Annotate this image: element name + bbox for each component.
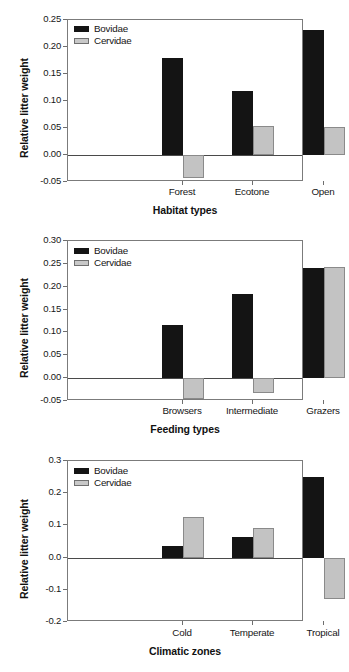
- legend-climatic: Bovidae Cervidae: [74, 465, 132, 489]
- bar-tropical-cervidae: [324, 558, 345, 600]
- y-tick-label: 0.00: [43, 149, 61, 159]
- legend-habitat: Bovidae Cervidae: [74, 23, 132, 47]
- x-tick-mark: [323, 621, 324, 625]
- bar-ecotone-cervidae: [253, 126, 274, 155]
- bar-temperate-bovidae: [232, 537, 253, 558]
- y-tick-label: 0.30: [43, 235, 61, 245]
- y-axis-title: Relative litter weight: [18, 499, 30, 599]
- x-tick-label: Grazers: [283, 405, 349, 416]
- x-tick-mark: [182, 400, 183, 404]
- y-tick-label: 0.25: [43, 14, 61, 24]
- bar-ecotone-bovidae: [232, 91, 253, 155]
- y-tick-label: 0.25: [43, 258, 61, 268]
- legend-swatch-cervidae-icon: [74, 480, 89, 486]
- bar-cold-cervidae: [183, 517, 204, 558]
- legend-row-cervidae: Cervidae: [74, 477, 132, 488]
- panel-habitat-types: Relative litter weight 0.250.200.150.100…: [0, 0, 323, 224]
- y-axis-title: Relative litter weight: [18, 278, 30, 378]
- zero-reference-line: [68, 558, 302, 559]
- x-tick-label: Ecotone: [212, 186, 292, 197]
- x-tick-mark: [323, 400, 324, 404]
- x-axis-title: Feeding types: [65, 423, 305, 435]
- y-tick-label: 0.0: [48, 552, 61, 562]
- legend-swatch-bovidae-icon: [74, 248, 89, 254]
- y-tick-label: 0.10: [43, 95, 61, 105]
- plot-area-feeding: Bovidae Cervidae: [67, 240, 303, 400]
- legend-swatch-bovidae-icon: [74, 468, 89, 474]
- bar-open-bovidae: [303, 30, 324, 155]
- y-tick-label: -0.2: [45, 616, 61, 626]
- y-tick-label: 0.05: [43, 349, 61, 359]
- bar-browsers-bovidae: [162, 325, 183, 378]
- bar-forest-cervidae: [183, 155, 204, 178]
- x-tick-label: Cold: [142, 627, 222, 638]
- bar-intermediate-cervidae: [253, 378, 274, 393]
- bar-grazers-cervidae: [324, 267, 345, 379]
- plot-area-climatic: Bovidae Cervidae: [67, 460, 303, 621]
- legend-row-bovidae: Bovidae: [74, 23, 132, 34]
- y-tick-label: 0.10: [43, 326, 61, 336]
- x-axis-title: Habitat types: [65, 204, 305, 216]
- bar-tropical-bovidae: [303, 477, 324, 558]
- panel-climatic-zones: Relative litter weight 0.30.20.10.0-0.1-…: [0, 448, 323, 672]
- legend-row-cervidae: Cervidae: [74, 257, 132, 268]
- y-axis-title: Relative litter weight: [18, 58, 30, 158]
- x-tick-mark: [252, 621, 253, 625]
- legend-swatch-cervidae-icon: [74, 38, 89, 44]
- x-tick-label: Intermediate: [212, 405, 292, 416]
- x-tick-mark: [182, 621, 183, 625]
- y-tick-label: 0.15: [43, 304, 61, 314]
- x-tick-mark: [252, 400, 253, 404]
- bar-cold-bovidae: [162, 546, 183, 558]
- x-tick-label: Browsers: [142, 405, 222, 416]
- x-tick-label: Forest: [142, 186, 222, 197]
- legend-label-cervidae: Cervidae: [94, 478, 132, 488]
- bar-open-cervidae: [324, 127, 345, 155]
- legend-label-bovidae: Bovidae: [94, 466, 128, 476]
- legend-swatch-cervidae-icon: [74, 260, 89, 266]
- x-tick-label: Tropical: [283, 627, 349, 638]
- plot-area-habitat: Bovidae Cervidae: [67, 19, 303, 181]
- y-tick-label: 0.05: [43, 122, 61, 132]
- y-tick-mark: [63, 400, 67, 401]
- x-tick-mark: [182, 181, 183, 185]
- legend-row-cervidae: Cervidae: [74, 35, 132, 46]
- y-tick-label: 0.1: [48, 519, 61, 529]
- x-tick-label: Open: [283, 186, 349, 197]
- legend-label-bovidae: Bovidae: [94, 246, 128, 256]
- legend-swatch-bovidae-icon: [74, 26, 89, 32]
- y-tick-label: 0.3: [48, 455, 61, 465]
- legend-label-cervidae: Cervidae: [94, 258, 132, 268]
- y-tick-label: -0.05: [40, 176, 61, 186]
- y-tick-label: 0.15: [43, 68, 61, 78]
- bar-grazers-bovidae: [303, 268, 324, 379]
- y-tick-mark: [63, 181, 67, 182]
- legend-row-bovidae: Bovidae: [74, 245, 132, 256]
- y-tick-mark: [63, 621, 67, 622]
- x-tick-mark: [323, 181, 324, 185]
- y-tick-label: 0.20: [43, 41, 61, 51]
- bar-browsers-cervidae: [183, 378, 204, 399]
- x-axis-title: Climatic zones: [65, 645, 305, 657]
- y-tick-label: 0.2: [48, 487, 61, 497]
- legend-label-bovidae: Bovidae: [94, 24, 128, 34]
- y-tick-label: -0.1: [45, 584, 61, 594]
- legend-feeding: Bovidae Cervidae: [74, 245, 132, 269]
- y-tick-label: 0.00: [43, 372, 61, 382]
- bar-forest-bovidae: [162, 58, 183, 155]
- y-tick-label: 0.20: [43, 281, 61, 291]
- legend-row-bovidae: Bovidae: [74, 465, 132, 476]
- panel-feeding-types: Relative litter weight 0.300.250.200.150…: [0, 224, 323, 448]
- x-tick-label: Temperate: [212, 627, 292, 638]
- x-tick-mark: [252, 181, 253, 185]
- y-tick-label: -0.05: [40, 395, 61, 405]
- bar-intermediate-bovidae: [232, 294, 253, 379]
- legend-label-cervidae: Cervidae: [94, 36, 132, 46]
- bar-temperate-cervidae: [253, 528, 274, 558]
